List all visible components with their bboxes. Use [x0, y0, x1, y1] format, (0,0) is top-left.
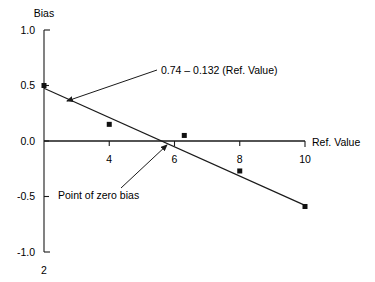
x-axis: 246810	[41, 141, 311, 276]
y-tick-label: -1.0	[17, 246, 35, 258]
x-tick-label: 2	[41, 264, 47, 276]
chart-svg: Bias Ref. Value 1.00.50.0-0.5-1.0 246810…	[0, 0, 375, 282]
regression-line	[44, 88, 305, 205]
y-tick-label: -0.5	[17, 190, 35, 202]
fit-line-segment	[44, 88, 305, 205]
data-point-marker	[42, 83, 47, 88]
data-point-marker	[182, 133, 187, 138]
x-tick-label: 8	[237, 153, 243, 165]
x-tick-label: 4	[106, 153, 112, 165]
data-point-marker	[237, 168, 242, 173]
regression-equation-label: 0.74 – 0.132 (Ref. Value)	[161, 64, 278, 76]
annotation-leader-0	[67, 70, 157, 101]
y-axis-title: Bias	[34, 7, 54, 19]
x-tick-label: 6	[172, 153, 178, 165]
zero-bias-label: Point of zero bias	[58, 189, 139, 201]
annotation-leader-1	[121, 145, 167, 188]
data-point-marker	[107, 122, 112, 127]
y-tick-label: 0.5	[20, 79, 35, 91]
annotation-leaders	[67, 70, 167, 188]
x-axis-title: Ref. Value	[312, 136, 360, 148]
bias-vs-ref-value-chart: Bias Ref. Value 1.00.50.0-0.5-1.0 246810…	[0, 0, 375, 282]
data-point-marker	[303, 204, 308, 209]
y-tick-label: 1.0	[20, 24, 35, 36]
y-tick-label: 0.0	[20, 135, 35, 147]
x-tick-label: 10	[299, 153, 311, 165]
